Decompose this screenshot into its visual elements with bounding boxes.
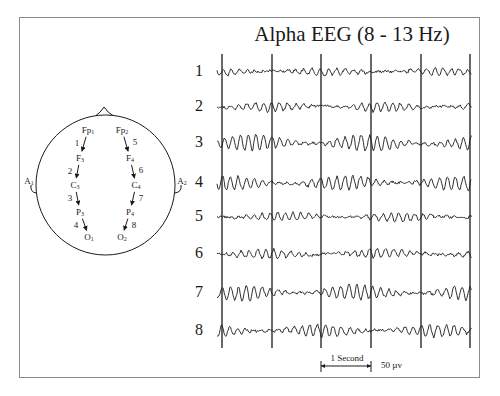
electrode-f4: F4	[126, 153, 134, 163]
electrode-o1: O1	[84, 232, 94, 242]
derivation-arrow-1	[82, 137, 86, 152]
channel-label-3: 3	[191, 133, 207, 151]
head-circle	[36, 115, 175, 255]
derivation-number-5: 5	[133, 137, 138, 147]
time-scale-label: 1 Second	[325, 353, 369, 363]
eeg-trace-channel-3	[217, 135, 471, 152]
eeg-trace-channel-4	[217, 175, 471, 191]
channel-label-2: 2	[191, 97, 207, 115]
derivation-arrow-2	[76, 165, 78, 178]
channel-label-1: 1	[191, 62, 207, 80]
electrode-fp2: Fp2	[116, 125, 129, 135]
electrode-fp1: Fp1	[82, 125, 95, 135]
electrode-o2: O2	[117, 232, 127, 242]
channel-label-5: 5	[191, 207, 207, 225]
derivation-arrow-3	[76, 192, 78, 205]
eeg-traces	[217, 68, 471, 339]
eeg-trace-channel-8	[217, 324, 471, 338]
electrode-p4: P4	[126, 207, 134, 217]
derivation-number-1: 1	[75, 138, 80, 148]
right-ear-icon	[175, 185, 181, 193]
electrode-p3: P3	[76, 207, 84, 217]
eeg-trace-channel-6	[217, 248, 471, 259]
electrode-c3: C3	[70, 180, 79, 190]
eeg-trace-channel-2	[217, 102, 471, 113]
derivation-arrow-6	[132, 165, 135, 178]
channel-label-6: 6	[191, 244, 207, 262]
derivation-arrow-4	[82, 219, 86, 231]
time-marker-lines	[222, 54, 470, 348]
derivation-number-3: 3	[68, 193, 73, 203]
electrode-f3: F3	[76, 153, 84, 163]
derivation-arrow-7	[132, 192, 135, 205]
derivation-number-7: 7	[139, 193, 144, 203]
derivation-number-6: 6	[139, 165, 144, 175]
derivation-arrow-5	[124, 137, 128, 152]
electrode-c4: C4	[131, 180, 140, 190]
derivation-arrow-8	[124, 219, 128, 231]
derivation-number-2: 2	[68, 166, 73, 176]
eeg-figure-canvas	[0, 0, 500, 396]
eeg-trace-channel-7	[217, 284, 471, 301]
left-ear-icon	[31, 185, 36, 193]
head-outline	[31, 107, 181, 255]
derivation-number-8: 8	[132, 220, 137, 230]
eeg-trace-channel-1	[217, 68, 471, 77]
channel-label-4: 4	[191, 173, 207, 191]
derivation-number-4: 4	[74, 220, 79, 230]
amplitude-scale-label: 50 µv	[381, 360, 402, 370]
ear-electrode-a1: A1	[24, 176, 34, 186]
channel-label-8: 8	[191, 321, 207, 339]
channel-label-7: 7	[191, 283, 207, 301]
ear-electrode-a2: A2	[177, 176, 187, 186]
eeg-trace-channel-5	[217, 212, 471, 222]
